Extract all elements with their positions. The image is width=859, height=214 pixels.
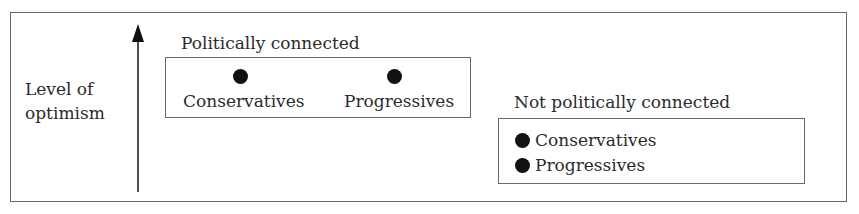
up-arrow-icon <box>130 22 146 194</box>
marker-icon <box>515 158 530 173</box>
item-label-progressives: Progressives <box>344 91 454 111</box>
item-label-progressives: Progressives <box>535 155 645 175</box>
marker-icon <box>387 69 402 84</box>
group-box-not-connected: Conservatives Progressives <box>498 118 805 184</box>
marker-icon <box>515 133 530 148</box>
marker-icon <box>233 69 248 84</box>
y-axis-label-line2: optimism <box>25 101 105 125</box>
y-axis-label: Level of optimism <box>25 77 105 125</box>
group-title-connected: Politically connected <box>181 33 360 53</box>
item-label-conservatives: Conservatives <box>183 91 305 111</box>
group-title-not-connected: Not politically connected <box>514 92 730 112</box>
item-label-conservatives: Conservatives <box>535 130 657 150</box>
group-box-connected: Conservatives Progressives <box>165 57 471 118</box>
y-axis-label-line1: Level of <box>25 77 105 101</box>
